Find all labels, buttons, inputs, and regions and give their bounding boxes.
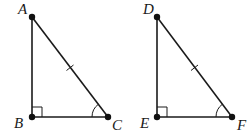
label-e: E xyxy=(139,115,149,131)
diagram-canvas: A B C D E F xyxy=(0,0,251,138)
point-f xyxy=(229,114,235,120)
label-f: F xyxy=(236,117,247,133)
label-a: A xyxy=(17,1,28,17)
side-ac xyxy=(32,17,108,117)
label-d: D xyxy=(142,1,154,17)
label-c: C xyxy=(112,117,123,133)
triangle-def: D E F xyxy=(139,1,247,133)
point-c xyxy=(105,114,111,120)
triangle-abc: A B C xyxy=(14,1,123,133)
angle-arc-f xyxy=(216,104,222,117)
point-b xyxy=(29,114,35,120)
side-df xyxy=(157,17,232,117)
angle-arc-c xyxy=(92,104,98,117)
label-b: B xyxy=(14,115,23,131)
point-e xyxy=(154,114,160,120)
point-a xyxy=(29,14,35,20)
point-d xyxy=(154,14,160,20)
